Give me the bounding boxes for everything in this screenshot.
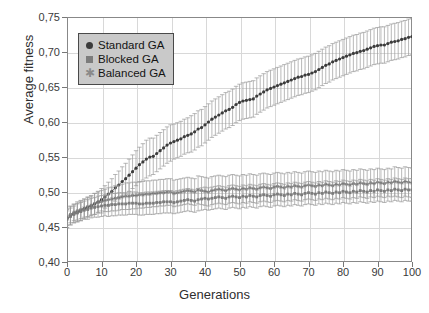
legend-label-blocked-ga: Blocked GA (98, 52, 159, 66)
data-point (280, 193, 283, 196)
data-point (345, 55, 348, 58)
data-point (117, 203, 120, 206)
data-point (307, 73, 310, 76)
data-point (255, 95, 258, 98)
data-point (314, 193, 317, 196)
data-point (221, 196, 224, 199)
data-point (207, 198, 210, 201)
data-point (410, 35, 413, 38)
data-point (328, 191, 331, 194)
data-point (252, 195, 255, 198)
x-tick-label: 10 (95, 266, 107, 278)
x-tick-mark (102, 262, 103, 267)
data-point (304, 192, 307, 195)
y-tick-mark (62, 227, 67, 228)
data-point (186, 198, 189, 201)
data-point (183, 199, 186, 202)
data-point (224, 109, 227, 112)
data-point (297, 193, 300, 196)
data-point (197, 127, 200, 130)
data-point (245, 196, 248, 199)
data-point (211, 197, 214, 200)
data-point (234, 103, 237, 106)
data-point (407, 189, 410, 192)
data-point (262, 90, 265, 93)
data-point (190, 199, 193, 202)
data-point (152, 202, 155, 205)
data-point (369, 189, 372, 192)
x-tick-label: 90 (371, 266, 383, 278)
data-point (238, 196, 241, 199)
data-point (131, 170, 134, 173)
data-point (290, 193, 293, 196)
x-tick-mark (136, 262, 137, 267)
data-point (121, 180, 124, 183)
data-point (255, 196, 258, 199)
data-point (107, 204, 110, 207)
data-point (248, 194, 251, 197)
chart-legend: Standard GA Blocked GA ✱ Balanced GA (78, 33, 174, 85)
data-point (341, 56, 344, 59)
data-point (362, 190, 365, 193)
data-point (283, 81, 286, 84)
data-point (383, 190, 386, 193)
data-point (407, 36, 410, 39)
legend-item-balanced-ga: ✱ Balanced GA (84, 66, 166, 80)
data-point (307, 191, 310, 194)
data-point (69, 215, 72, 218)
data-point (173, 201, 176, 204)
data-point (273, 193, 276, 196)
data-point (97, 205, 100, 208)
x-tick-mark (67, 262, 68, 267)
data-point (397, 189, 400, 192)
data-point (231, 106, 234, 109)
data-point (321, 66, 324, 69)
data-point (379, 43, 382, 46)
data-point (224, 197, 227, 200)
data-point (152, 155, 155, 158)
data-point (193, 130, 196, 133)
data-point (104, 204, 107, 207)
data-point (386, 189, 389, 192)
data-point (238, 101, 241, 104)
data-point (138, 203, 141, 206)
data-point (352, 52, 355, 55)
data-point (259, 194, 262, 197)
chart-figure: 0,400,450,500,550,600,650,700,75 0102030… (0, 0, 429, 313)
y-tick-mark (62, 157, 67, 158)
data-point (279, 83, 282, 86)
data-point (86, 208, 89, 211)
data-point (207, 120, 210, 123)
data-point (200, 198, 203, 201)
data-point (66, 218, 69, 221)
data-point (124, 203, 127, 206)
data-point (252, 97, 255, 100)
x-tick-label: 80 (337, 266, 349, 278)
data-point (148, 202, 151, 205)
data-point (355, 51, 358, 54)
x-tick-label: 20 (130, 266, 142, 278)
data-point (166, 200, 169, 203)
data-point (362, 49, 365, 52)
data-point (128, 174, 131, 177)
data-point (235, 196, 238, 199)
data-point (372, 45, 375, 48)
data-point (386, 42, 389, 45)
data-point (331, 60, 334, 63)
data-point (124, 177, 127, 180)
data-point (93, 206, 96, 209)
data-point (245, 99, 248, 102)
data-point (393, 40, 396, 43)
data-point (176, 139, 179, 142)
data-point (228, 196, 231, 199)
data-point (390, 189, 393, 192)
data-point (321, 192, 324, 195)
data-point (300, 75, 303, 78)
data-point (272, 85, 275, 88)
data-point (373, 190, 376, 193)
data-point (162, 146, 165, 149)
data-point (176, 200, 179, 203)
x-tick-label: 0 (64, 266, 70, 278)
data-point (324, 191, 327, 194)
data-point (342, 190, 345, 193)
